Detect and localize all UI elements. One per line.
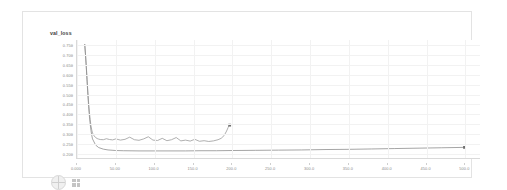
avatar-icon[interactable]: [51, 175, 66, 189]
gridline-horizontal: [77, 95, 480, 96]
x-axis-tick-label: 500.0: [459, 166, 469, 171]
x-axis-tick-mark: [193, 163, 194, 165]
x-axis-tick-mark: [387, 163, 388, 165]
grid-icon-cell: [77, 179, 81, 183]
gridline-horizontal: [77, 85, 480, 86]
gridline-horizontal: [77, 134, 480, 135]
plot-area: [76, 40, 480, 159]
gridline-vertical: [232, 40, 233, 158]
gridline-vertical: [194, 40, 195, 158]
gridline-horizontal: [77, 65, 480, 66]
gridline-vertical: [427, 40, 428, 158]
gridline-horizontal: [77, 154, 480, 155]
chart-card: val_loss 0.7500.7000.6500.6000.5500.5000…: [22, 11, 472, 178]
y-axis-tick-mark: [71, 45, 73, 46]
x-axis-tick-label: 300.0: [304, 166, 314, 171]
gridline-vertical: [388, 40, 389, 158]
series-lines: [77, 40, 480, 158]
y-axis-tick-mark: [71, 104, 73, 105]
y-axis-tick-mark: [71, 124, 73, 125]
y-axis-tick-mark: [71, 144, 73, 145]
gridline-vertical: [310, 40, 311, 158]
gridline-horizontal: [77, 104, 480, 105]
x-axis-tick-mark: [309, 163, 310, 165]
gridline-horizontal: [77, 114, 480, 115]
gridline-vertical: [116, 40, 117, 158]
x-axis-tick-mark: [231, 163, 232, 165]
footer-icon-group: [51, 175, 80, 189]
series-line: [85, 45, 230, 142]
y-axis-tick-mark: [71, 85, 73, 86]
x-axis-tick-mark: [76, 163, 77, 165]
x-axis-tick-label: 200.0: [226, 166, 236, 171]
x-axis-labels: 0.00050.00100.0150.0200.0250.0300.0350.0…: [76, 163, 480, 171]
gridline-horizontal: [77, 55, 480, 56]
x-axis-tick-label: 150.0: [187, 166, 197, 171]
x-axis-tick-label: 400.0: [382, 166, 392, 171]
gridline-horizontal: [77, 144, 480, 145]
gridline-horizontal: [77, 124, 480, 125]
x-axis-tick-mark: [464, 163, 465, 165]
grid-icon[interactable]: [72, 179, 80, 187]
y-axis-tick-mark: [71, 114, 73, 115]
x-axis-tick-label: 0.000: [71, 166, 81, 171]
y-axis-tick-mark: [71, 65, 73, 66]
grid-icon-cell: [72, 183, 76, 187]
gridline-vertical: [465, 40, 466, 158]
x-axis-tick-label: 50.00: [110, 166, 120, 171]
gridline-horizontal: [77, 75, 480, 76]
gridline-horizontal: [77, 45, 480, 46]
x-axis-tick-mark: [115, 163, 116, 165]
chart-title: val_loss: [50, 30, 72, 36]
gridline-vertical: [349, 40, 350, 158]
grid-icon-cell: [72, 179, 76, 183]
grid-icon-cell: [77, 183, 81, 187]
x-axis-tick-label: 100.0: [149, 166, 159, 171]
gridline-vertical: [271, 40, 272, 158]
y-axis-tick-mark: [71, 134, 73, 135]
x-axis-tick-mark: [348, 163, 349, 165]
y-axis-tick-mark: [71, 154, 73, 155]
x-axis-tick-label: 350.0: [343, 166, 353, 171]
y-axis-labels: 0.7500.7000.6500.6000.5500.5000.4500.400…: [51, 40, 73, 159]
y-axis-tick-mark: [71, 55, 73, 56]
x-axis-tick-mark: [270, 163, 271, 165]
x-axis-tick-label: 250.0: [265, 166, 275, 171]
x-axis-tick-label: 450.0: [420, 166, 430, 171]
x-axis-tick-mark: [426, 163, 427, 165]
screenshot-root: val_loss 0.7500.7000.6500.6000.5500.5000…: [0, 0, 507, 189]
y-axis-tick-mark: [71, 95, 73, 96]
x-axis-tick-mark: [154, 163, 155, 165]
gridline-vertical: [77, 40, 78, 158]
y-axis-tick-mark: [71, 75, 73, 76]
gridline-vertical: [155, 40, 156, 158]
